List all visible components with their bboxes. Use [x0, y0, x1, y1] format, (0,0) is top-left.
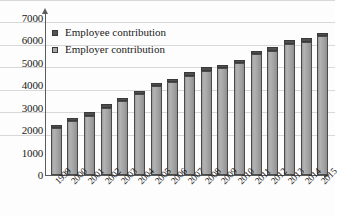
bar-segment-employee[interactable] — [51, 125, 62, 128]
bar-group[interactable] — [234, 18, 245, 175]
bar-group[interactable] — [284, 18, 295, 175]
bar-group[interactable] — [317, 18, 328, 175]
bar-segment-employer[interactable] — [317, 36, 328, 175]
legend-swatch-employee-icon — [52, 30, 58, 36]
bar-segment-employer[interactable] — [267, 51, 278, 175]
bar-segment-employer[interactable] — [51, 128, 62, 175]
bar-segment-employer[interactable] — [217, 68, 228, 175]
legend-item-employee: Employee contribution — [52, 24, 192, 41]
bar-segment-employer[interactable] — [67, 121, 78, 175]
bar-segment-employer[interactable] — [117, 101, 128, 175]
gridline — [0, 0, 335, 1]
bar-segment-employer[interactable] — [301, 42, 312, 175]
bar-segment-employer[interactable] — [234, 63, 245, 175]
bar-segment-employee[interactable] — [234, 60, 245, 63]
bar-segment-employer[interactable] — [134, 94, 145, 175]
bar-segment-employee[interactable] — [67, 118, 78, 121]
bar-segment-employee[interactable] — [217, 65, 228, 68]
bar-segment-employee[interactable] — [167, 79, 178, 82]
bar-segment-employer[interactable] — [284, 44, 295, 175]
bar-group[interactable] — [201, 18, 212, 175]
bar-segment-employee[interactable] — [134, 91, 145, 94]
bar-segment-employee[interactable] — [251, 51, 262, 54]
bar-segment-employer[interactable] — [167, 82, 178, 175]
bar-segment-employer[interactable] — [84, 116, 95, 175]
bar-group[interactable] — [251, 18, 262, 175]
bar-segment-employee[interactable] — [84, 112, 95, 115]
bar-segment-employee[interactable] — [284, 40, 295, 43]
bar-segment-employer[interactable] — [151, 86, 162, 175]
bar-segment-employee[interactable] — [151, 83, 162, 86]
legend-item-employer: Employer contribution — [52, 41, 192, 58]
bar-segment-employee[interactable] — [267, 47, 278, 50]
legend-label-employer: Employer contribution — [65, 44, 165, 55]
bar-segment-employee[interactable] — [117, 98, 128, 101]
bar-segment-employee[interactable] — [184, 72, 195, 76]
bar-segment-employee[interactable] — [301, 38, 312, 41]
x-axis-tick-labels: 1999200020012002200320042005200620072008… — [46, 177, 329, 216]
legend-label-employee: Employee contribution — [65, 27, 166, 38]
bar-segment-employer[interactable] — [184, 76, 195, 175]
bar-segment-employee[interactable] — [101, 104, 112, 107]
bar-segment-employee[interactable] — [201, 67, 212, 70]
bar-segment-employer[interactable] — [251, 54, 262, 175]
bar-group[interactable] — [267, 18, 278, 175]
bar-segment-employer[interactable] — [201, 71, 212, 175]
y-axis-arrow-icon — [42, 8, 48, 14]
bar-segment-employee[interactable] — [317, 33, 328, 36]
legend-swatch-employer-icon — [52, 47, 58, 53]
bar-segment-employer[interactable] — [101, 108, 112, 175]
bar-group[interactable] — [217, 18, 228, 175]
chart-legend: Employee contribution Employer contribut… — [52, 24, 192, 58]
bar-group[interactable] — [301, 18, 312, 175]
